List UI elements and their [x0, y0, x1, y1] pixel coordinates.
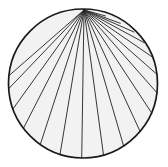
apex-vertex [83, 9, 85, 11]
circle-fan-diagram: Fan of chords from a point on a circle [0, 0, 168, 167]
